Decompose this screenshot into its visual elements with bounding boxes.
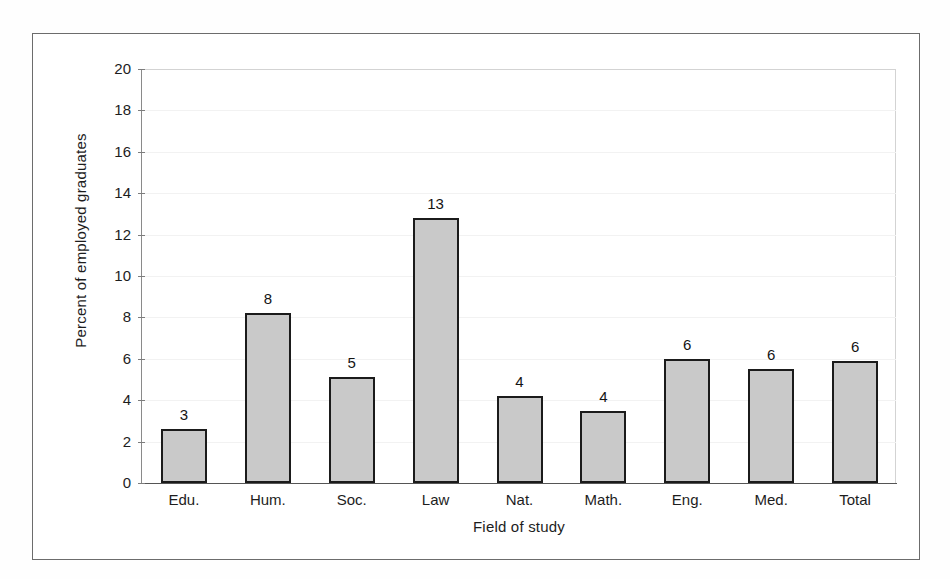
- x-axis-tick-label: Hum.: [226, 490, 310, 510]
- bar[interactable]: [161, 429, 207, 483]
- bar[interactable]: [748, 369, 794, 483]
- y-axis-tick-label: 0: [123, 473, 131, 493]
- bar-value-label: 6: [767, 346, 775, 363]
- bars-layer: 3851344666: [142, 69, 896, 483]
- x-axis-tick-label: Total: [813, 490, 897, 510]
- x-axis-tick-label: Nat.: [478, 490, 562, 510]
- bar-value-label: 8: [264, 290, 272, 307]
- y-axis-tick-label: 4: [123, 390, 131, 410]
- y-axis-tick-label: 8: [123, 307, 131, 327]
- y-axis-tick-label: 14: [114, 183, 131, 203]
- scanned-page-canvas: 02468101214161820 Percent of employed gr…: [0, 0, 950, 579]
- bar-value-label: 6: [851, 338, 859, 355]
- bar-chart: 02468101214161820 Percent of employed gr…: [33, 34, 919, 559]
- bar-value-label: 6: [683, 336, 691, 353]
- x-axis-tick-label: Soc.: [310, 490, 394, 510]
- x-axis-tick-label: Eng.: [645, 490, 729, 510]
- bar[interactable]: [245, 313, 291, 483]
- bar-group: 6: [832, 69, 878, 483]
- bar[interactable]: [664, 359, 710, 483]
- bar[interactable]: [497, 396, 543, 483]
- x-axis-title: Field of study: [141, 518, 897, 535]
- bar-group: 4: [580, 69, 626, 483]
- bar-value-label: 3: [180, 406, 188, 423]
- x-axis-tick-label: Math.: [561, 490, 645, 510]
- x-axis-tick-label: Law: [394, 490, 478, 510]
- bar-value-label: 5: [348, 354, 356, 371]
- bar-value-label: 4: [599, 388, 607, 405]
- bar[interactable]: [832, 361, 878, 483]
- y-axis-tick-label: 10: [114, 266, 131, 286]
- y-axis-tick-label: 16: [114, 142, 131, 162]
- x-axis-tick-label: Edu.: [142, 490, 226, 510]
- bar[interactable]: [580, 411, 626, 483]
- bar-group: 6: [664, 69, 710, 483]
- bar-group: 3: [161, 69, 207, 483]
- y-axis-tick-mark: [138, 483, 145, 484]
- bar-group: 5: [329, 69, 375, 483]
- y-axis-title: Percent of employed graduates: [72, 76, 89, 406]
- bar-group: 8: [245, 69, 291, 483]
- bar-value-label: 13: [427, 195, 444, 212]
- y-axis-tick-label: 12: [114, 225, 131, 245]
- y-axis-tick-label: 20: [114, 59, 131, 79]
- bar[interactable]: [413, 218, 459, 483]
- figure-frame: 02468101214161820 Percent of employed gr…: [32, 33, 920, 560]
- y-axis-tick-label: 2: [123, 432, 131, 452]
- x-axis-tick-labels: Edu.Hum.Soc.LawNat.Math.Eng.Med.Total: [142, 490, 896, 514]
- x-axis-tick-label: Med.: [729, 490, 813, 510]
- y-axis-tick-label: 6: [123, 349, 131, 369]
- bar-value-label: 4: [515, 373, 523, 390]
- x-axis-line: [141, 483, 897, 484]
- bar-group: 6: [748, 69, 794, 483]
- bar-group: 4: [497, 69, 543, 483]
- bar[interactable]: [329, 377, 375, 483]
- y-axis-tick-label: 18: [114, 100, 131, 120]
- bar-group: 13: [413, 69, 459, 483]
